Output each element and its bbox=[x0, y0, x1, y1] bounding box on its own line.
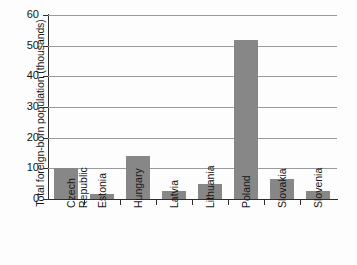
x-label-line: Slovenia bbox=[313, 168, 325, 208]
x-tick-mark-6 bbox=[264, 200, 265, 205]
y-tick-label-0: 0 bbox=[0, 193, 39, 204]
x-label-line: Poland bbox=[241, 175, 253, 208]
y-tick-label-40: 40 bbox=[0, 70, 39, 81]
x-tick-mark-7 bbox=[300, 200, 301, 205]
x-tick-mark-4 bbox=[192, 200, 193, 205]
x-label-line: Lithuania bbox=[205, 165, 217, 208]
y-tick-label-30: 30 bbox=[0, 101, 39, 112]
y-tick-mark-0 bbox=[43, 199, 48, 200]
x-tick-mark-3 bbox=[156, 200, 157, 205]
x-label-line: Estonia bbox=[97, 173, 109, 208]
x-tick-mark-2 bbox=[120, 200, 121, 205]
bars-group bbox=[48, 15, 337, 199]
plot-area bbox=[48, 15, 337, 199]
x-tick-mark-5 bbox=[228, 200, 229, 205]
x-label-line: Latvia bbox=[169, 180, 181, 208]
x-label-line: Czech bbox=[66, 167, 78, 208]
y-tick-label-50: 50 bbox=[0, 40, 39, 51]
x-label-line: Slovakia bbox=[277, 168, 289, 208]
y-tick-label-60: 60 bbox=[0, 9, 39, 20]
x-label-line: Hungary bbox=[133, 168, 145, 208]
bar-chart: Total foreign-born population (thousands… bbox=[0, 0, 357, 265]
y-tick-label-10: 10 bbox=[0, 162, 39, 173]
y-tick-label-20: 20 bbox=[0, 132, 39, 143]
x-label-line: Republic bbox=[78, 167, 90, 208]
